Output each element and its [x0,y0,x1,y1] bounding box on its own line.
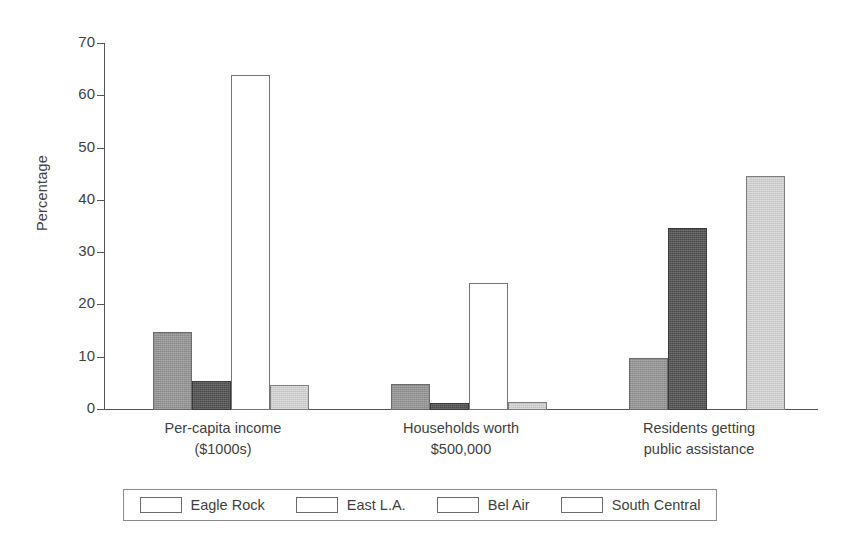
x-axis-label-2: Households worth$500,000 [341,418,581,460]
legend-label: East L.A. [347,497,406,513]
bar [469,283,508,410]
y-tick-mark [97,409,105,410]
legend-item-south-central[interactable]: South Central [561,497,701,513]
y-tick-label: 20 [78,293,95,313]
bar [508,402,547,410]
y-axis-line [104,44,105,410]
bar [192,381,231,410]
legend-swatch-icon [140,497,182,513]
y-tick-30: 30 [104,252,105,253]
legend-label: Bel Air [488,497,530,513]
y-tick-mark [97,252,105,253]
y-tick-label: 50 [78,137,95,157]
y-tick-70: 70 [104,43,105,44]
y-axis-title: Percentage [34,133,50,253]
x-axis-label-line: $500,000 [341,439,581,460]
y-tick-label: 70 [78,32,95,52]
legend-label: South Central [612,497,701,513]
y-tick-mark [97,148,105,149]
y-tick-mark [97,200,105,201]
x-axis-label-3: Residents gettingpublic assistance [579,418,819,460]
y-tick-50: 50 [104,148,105,149]
legend-swatch-icon [296,497,338,513]
legend-item-east-l-a[interactable]: East L.A. [296,497,406,513]
y-tick-40: 40 [104,200,105,201]
x-axis-category-labels: Per-capita income($1000s)Households wort… [104,418,818,466]
legend-swatch-icon [437,497,479,513]
legend-item-eagle-rock[interactable]: Eagle Rock [140,497,265,513]
y-tick-label: 10 [78,346,95,366]
bar [430,403,469,410]
y-tick-label: 40 [78,189,95,209]
bar [153,332,192,410]
x-axis-label-line: public assistance [579,439,819,460]
x-axis-label-1: Per-capita income($1000s) [103,418,343,460]
x-axis-label-line: Residents getting [643,420,755,436]
y-tick-10: 10 [104,357,105,358]
bar [746,176,785,410]
bar [391,384,430,410]
y-tick-60: 60 [104,95,105,96]
bar [629,358,668,410]
bar [668,228,707,410]
x-axis-label-line: Households worth [403,420,519,436]
y-tick-0: 0 [104,409,105,410]
y-tick-mark [97,304,105,305]
chart-legend: Eagle RockEast L.A.Bel AirSouth Central [123,489,717,521]
legend-label: Eagle Rock [191,497,265,513]
y-tick-mark [97,43,105,44]
bar [270,385,309,410]
y-tick-20: 20 [104,304,105,305]
y-tick-mark [97,95,105,96]
bar [231,75,270,410]
legend-swatch-icon [561,497,603,513]
x-axis-label-line: ($1000s) [103,439,343,460]
y-tick-mark [97,357,105,358]
y-tick-label: 60 [78,84,95,104]
y-tick-label: 0 [87,398,95,418]
bar-chart: Percentage 010203040506070 Per-capita in… [0,0,846,539]
x-axis-label-line: Per-capita income [165,420,282,436]
legend-item-bel-air[interactable]: Bel Air [437,497,530,513]
y-tick-label: 30 [78,241,95,261]
plot-area: 010203040506070 [104,44,818,410]
